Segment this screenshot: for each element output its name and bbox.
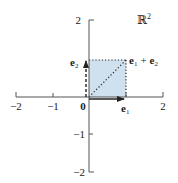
x-tick-label-2: 2 [160,100,166,112]
y-tick-label--2: −2 [73,166,85,178]
y-tick-label-2: 2 [76,14,82,26]
origin-label: 0 [80,100,86,112]
x-tick-label--2: −2 [10,100,22,112]
coordinate-plane: −2 −1 2 2 −1 −2 0 ℝ2 e1 e2 e1+e2 [0,0,178,183]
y-tick-label--1: −1 [73,128,85,140]
sum-label: e1+e2 [129,54,159,68]
e2-label: e2 [70,56,79,70]
space-label: ℝ2 [137,12,151,27]
e1-label: e1 [121,102,130,116]
x-tick-label--1: −1 [47,100,59,112]
